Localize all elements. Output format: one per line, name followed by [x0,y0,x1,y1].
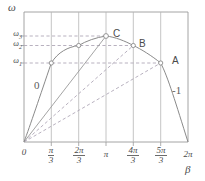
point-label-A: A [172,55,179,66]
x-tick-5pi3-denominator: 3 [155,156,166,165]
y-axis-title: ω [8,1,16,13]
x-tick-label-2pi: 2π [175,150,201,159]
x-tick-0-text: 0 [22,147,27,157]
point-label-B: B [139,38,146,49]
x-tick-4pi3-fraction: 4π 3 [127,146,138,166]
x-tick-label-5pi-over-3: 5π 3 [148,146,174,166]
x-tick-label-2pi-over-3: 2π 3 [66,146,92,166]
x-tick-5pi3-fraction: 5π 3 [155,146,166,166]
origin-ray-to-A [24,63,161,142]
x-tick-2pi3-denominator: 3 [73,156,84,165]
vertical-gridlines [51,12,160,142]
x-tick-pi-text: π [104,149,109,159]
annotation-curve-left: 0 [34,79,40,91]
x-tick-4pi3-denominator: 3 [127,156,138,165]
x-tick-label-pi: π [93,150,119,159]
point-label-C: C [113,28,120,39]
x-tick-2pi-text: 2π [183,149,192,159]
x-tick-2pi3-fraction: 2π 3 [73,146,84,166]
y-tick-omega2-sub: 2 [19,44,22,50]
y-tick-label-omega3: ω3 [0,29,22,40]
y-tick-label-omega2: ω2 [0,39,22,50]
y-tick-omega1-sub: 1 [19,61,22,67]
x-tick-label-pi-over-3: π 3 [38,146,64,166]
y-tick-label-omega1: ω1 [0,56,22,67]
x-tick-label-4pi-over-3: 4π 3 [120,146,146,166]
annotation-curve-right: -1 [172,84,181,96]
x-tick-label-0: 0 [11,148,37,157]
x-tick-pi3-denominator: 3 [48,156,55,165]
x-tick-pi3-fraction: π 3 [48,146,55,166]
omega-beta-figure: ω β ω3 ω2 ω1 0 π 3 2π 3 π 4π 3 5π 3 2π [0,0,205,181]
x-axis-title: β [185,163,190,175]
